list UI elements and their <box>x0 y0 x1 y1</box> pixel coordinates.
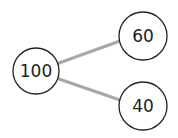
whole-node: 100 <box>13 48 59 94</box>
part-node-40: 40 <box>119 82 167 130</box>
connector-whole-to-part-40 <box>59 79 120 100</box>
whole-label: 100 <box>20 61 52 81</box>
part-label-40: 40 <box>132 96 154 116</box>
part-label-60: 60 <box>132 26 154 46</box>
part-node-60: 60 <box>119 12 167 60</box>
connector-whole-to-part-60 <box>59 41 120 63</box>
number-bond-diagram: 100 60 40 <box>0 0 178 138</box>
